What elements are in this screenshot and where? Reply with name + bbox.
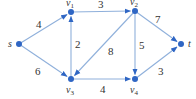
weight-v2-v4: 5 (139, 39, 145, 51)
edge-s-v3 (19, 44, 67, 77)
edge-v2-v3 (75, 11, 136, 76)
label-v4: v4 (130, 84, 138, 97)
label-s: s (8, 38, 12, 49)
weight-s-v3: 6 (35, 65, 41, 77)
node-s (16, 41, 22, 47)
flow-network-diagram: 4 6 2 3 8 5 4 7 3 s v1 v2 v3 v4 t (0, 0, 196, 99)
label-v1: v1 (66, 0, 74, 10)
weight-v3-v4: 4 (100, 83, 106, 95)
weight-v2-v3: 8 (108, 45, 114, 57)
label-t: t (188, 38, 191, 49)
node-v3 (68, 76, 74, 82)
weight-v4-t: 3 (158, 65, 164, 77)
label-v2: v2 (130, 0, 138, 9)
edge-s-v1 (19, 15, 67, 45)
weight-v3-v1: 2 (75, 38, 81, 50)
edge-v4-t (135, 47, 177, 79)
node-t (178, 41, 184, 47)
label-v3: v3 (66, 84, 74, 97)
edge-v1-v2 (71, 11, 131, 12)
node-v4 (132, 76, 138, 82)
weight-v2-t: 7 (155, 13, 161, 25)
weight-s-v1: 4 (36, 18, 42, 30)
weight-v1-v2: 3 (98, 0, 104, 10)
